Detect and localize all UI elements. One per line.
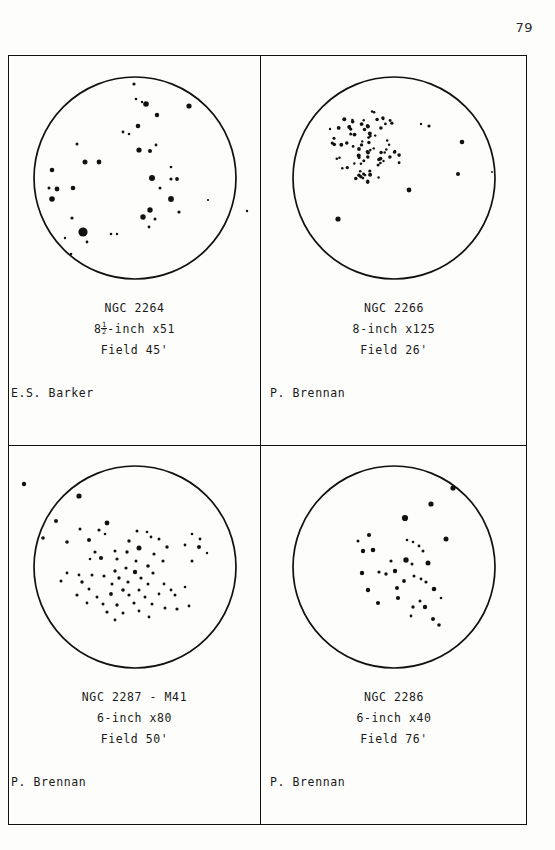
panel-caption: NGC 2264 812-inch x51 Field 45': [9, 298, 260, 361]
field-circle: [293, 466, 495, 668]
star-marker: [104, 521, 109, 526]
sky-field-wrap: [9, 62, 260, 300]
star-marker: [424, 580, 427, 583]
field-size: Field 26': [260, 340, 528, 361]
star-marker: [383, 151, 386, 154]
star-marker: [169, 177, 172, 180]
star-marker: [76, 493, 81, 498]
star-marker: [398, 161, 401, 164]
observation-panel-ngc-2264: NGC 2264 812-inch x51 Field 45' E.S. Bar…: [9, 56, 260, 445]
star-marker: [163, 607, 166, 610]
star-marker: [412, 541, 415, 544]
star-marker: [377, 570, 380, 573]
star-chart-svg: [278, 451, 510, 683]
star-marker: [95, 596, 98, 599]
star-marker: [65, 540, 69, 544]
field-size: Field 50': [9, 729, 260, 750]
document-page: 79 NGC 2264 812-inch x51 Field 45' E.S. …: [0, 0, 555, 850]
star-marker: [134, 560, 137, 563]
star-marker: [183, 544, 186, 547]
instrument-spec: 6-inch x80: [9, 708, 260, 729]
star-marker: [59, 580, 62, 583]
star-marker: [372, 147, 374, 149]
star-marker: [423, 605, 427, 609]
star-marker: [366, 155, 370, 159]
star-marker: [153, 218, 156, 221]
star-marker: [186, 103, 191, 108]
instrument-aperture: 8: [94, 322, 102, 336]
star-marker: [450, 485, 455, 490]
star-marker: [168, 196, 174, 202]
star-marker: [333, 143, 336, 146]
star-marker: [169, 589, 172, 592]
field-size: Field 76': [260, 729, 528, 750]
star-marker: [115, 233, 117, 235]
star-marker: [413, 575, 416, 578]
star-field-ngc-2287-m41: [19, 451, 251, 683]
star-marker: [456, 172, 460, 176]
star-group: [357, 485, 456, 626]
star-marker: [386, 139, 388, 141]
star-marker: [375, 118, 379, 122]
star-marker: [137, 589, 140, 592]
star-marker: [339, 143, 343, 147]
star-marker: [335, 216, 340, 221]
star-marker: [169, 166, 172, 169]
star-marker: [96, 160, 101, 165]
star-marker: [341, 167, 343, 169]
object-name: NGC 2266: [260, 298, 528, 319]
star-marker: [353, 133, 357, 137]
star-marker: [444, 537, 449, 542]
instrument-spec: 812-inch x51: [9, 319, 260, 340]
star-marker: [134, 98, 137, 101]
star-marker: [97, 528, 100, 531]
star-marker: [360, 122, 364, 126]
star-marker: [101, 603, 104, 606]
star-marker: [245, 210, 247, 212]
star-marker: [109, 233, 112, 236]
star-marker: [63, 237, 65, 239]
star-chart-svg: [19, 451, 251, 683]
star-marker: [135, 124, 140, 129]
star-marker: [146, 583, 149, 586]
star-marker: [126, 580, 129, 583]
star-group: [47, 82, 251, 255]
star-marker: [440, 597, 443, 600]
star-marker: [371, 548, 376, 553]
star-marker: [388, 143, 390, 145]
star-marker: [117, 576, 120, 579]
star-marker: [377, 163, 380, 166]
star-marker: [420, 578, 423, 581]
star-marker: [382, 160, 384, 162]
field-circle: [34, 77, 236, 279]
star-marker: [351, 119, 354, 122]
star-marker: [78, 227, 87, 236]
star-marker: [147, 207, 152, 212]
star-chart-svg: [19, 62, 251, 294]
star-group: [21, 482, 207, 622]
star-marker: [136, 546, 141, 551]
star-marker: [47, 187, 50, 190]
star-marker: [418, 545, 421, 548]
star-marker: [426, 561, 431, 566]
star-marker: [357, 540, 360, 543]
star-marker: [136, 147, 141, 152]
star-marker: [377, 176, 379, 178]
observation-panel-grid: NGC 2264 812-inch x51 Field 45' E.S. Bar…: [8, 55, 527, 825]
star-marker: [346, 166, 349, 169]
field-circle: [293, 77, 495, 279]
star-marker: [113, 550, 116, 553]
star-marker: [379, 126, 383, 130]
star-marker: [384, 123, 387, 126]
star-marker: [407, 188, 412, 193]
star-marker: [427, 124, 430, 127]
observation-panel-ngc-2266: NGC 2266 8-inch x125 Field 26' P. Brenna…: [260, 56, 528, 445]
star-marker: [165, 545, 168, 548]
star-marker: [364, 174, 367, 177]
object-name: NGC 2286: [260, 687, 528, 708]
star-marker: [140, 214, 145, 219]
star-marker: [177, 210, 180, 213]
star-marker: [345, 141, 349, 145]
star-marker: [349, 132, 352, 135]
star-marker: [121, 588, 125, 592]
